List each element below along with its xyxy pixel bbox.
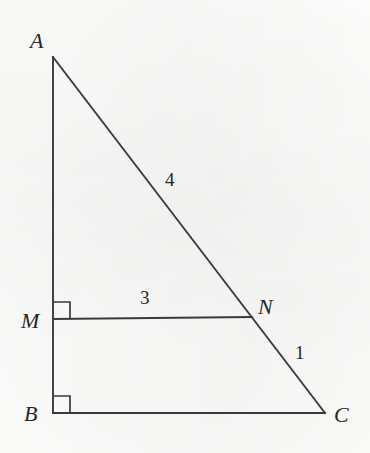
right-angle-mark-b [53,396,70,413]
vertex-label-m: M [21,310,39,332]
length-label-nc: 1 [295,343,305,362]
length-label-an: 4 [165,170,175,189]
segment-mn [53,317,252,319]
vertex-label-n: N [258,296,273,318]
segments-group [53,57,325,413]
vertex-label-b: B [24,403,37,425]
right-angle-mark-m [53,302,70,319]
vertex-label-c: C [334,404,349,426]
figure-canvas: A B C M N 4 3 1 [0,0,370,453]
triangle-figure [0,0,370,453]
segment-ac [53,57,325,413]
length-label-mn: 3 [140,288,150,307]
vertex-label-a: A [30,30,43,52]
